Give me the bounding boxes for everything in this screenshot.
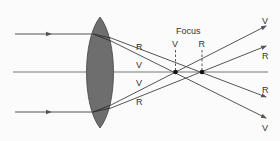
violet-ray-top <box>111 41 266 118</box>
lower-v-left-label: V <box>136 78 142 88</box>
chromatic-aberration-diagram: Focus V R R V V R V R R V <box>0 0 280 141</box>
upper-v-left-label: V <box>136 60 142 70</box>
upper-r-left-label: R <box>136 42 143 52</box>
focus-label: Focus <box>176 26 201 36</box>
red-ray-top <box>111 38 266 97</box>
arrow-icon <box>46 32 52 36</box>
right-v-bottom-label: V <box>262 123 268 133</box>
focus-r-label: R <box>199 39 206 49</box>
arrow-icon <box>46 110 52 114</box>
focus-v-label: V <box>172 39 178 49</box>
right-r-upper-label: R <box>262 51 269 61</box>
lower-r-left-label: R <box>136 97 143 107</box>
right-v-top-label: V <box>262 16 268 26</box>
red-ray-bottom <box>111 46 266 108</box>
right-r-lower-label: R <box>262 85 269 95</box>
violet-ray-bottom <box>111 26 266 105</box>
